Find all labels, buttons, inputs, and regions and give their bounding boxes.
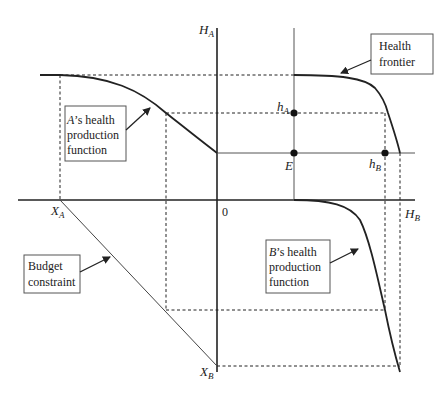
point-hB [381,149,388,156]
label-hB: hB [369,156,382,173]
budget-constraint-line [60,200,217,366]
svg-text:function: function [269,275,309,289]
callout-b-production-function: B’s health production function [266,240,358,293]
svg-text:B’s health: B’s health [269,245,317,259]
health-frontier-curve [294,75,400,153]
svg-text:A’s health: A’s health [66,113,115,127]
svg-text:Budget: Budget [28,259,63,273]
label-E: E [284,158,293,173]
label-origin: 0 [222,205,228,219]
svg-text:function: function [67,143,107,157]
callout-health-frontier: Health frontier [341,34,433,74]
svg-text:Health: Health [379,39,411,53]
label-XB: XB [199,364,214,381]
callout-budget-constraint: Budget constraint [24,255,110,293]
svg-text:constraint: constraint [28,275,76,289]
svg-text:production: production [67,128,119,142]
health-frontier-diagram: HA HB XA XB 0 hA E hB Health frontier A’… [0,0,444,394]
svg-text:frontier: frontier [379,55,415,69]
label-XA: XA [50,203,65,220]
svg-text:production: production [269,260,321,274]
point-hA [290,109,297,116]
label-hA: hA [277,99,290,116]
callout-a-production-function: A’s health production function [65,106,150,161]
point-E [290,149,297,156]
label-HA: HA [198,22,214,39]
label-HB: HB [404,206,420,223]
